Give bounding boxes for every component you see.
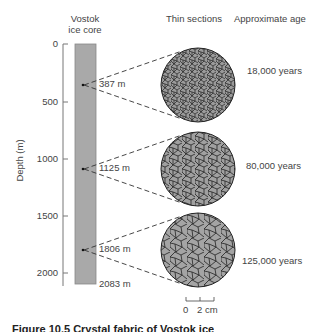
scale-zero: 0 — [183, 304, 188, 315]
depth-label-3: 1806 m — [99, 243, 131, 254]
thin-section-3 — [161, 213, 235, 287]
tick-1500: 1500 — [26, 210, 58, 221]
age-label-2: 80,000 years — [246, 160, 301, 171]
axis-label: Depth (m) — [14, 139, 25, 181]
sample-point-2 — [82, 168, 85, 171]
scale-label: 2 cm — [197, 304, 218, 315]
age-label-1: 18,000 years — [247, 65, 302, 76]
scale-bar — [186, 297, 214, 301]
axis-ticks — [63, 44, 68, 273]
core-bottom-label: 2083 m — [99, 278, 131, 289]
depth-label-1: 387 m — [99, 78, 125, 89]
header-core-line1: Vostok — [60, 13, 110, 24]
tick-0: 0 — [26, 38, 58, 49]
sample-point-3 — [82, 249, 85, 252]
tick-1000: 1000 — [26, 153, 58, 164]
tick-500: 500 — [26, 96, 58, 107]
depth-label-2: 1125 m — [99, 162, 130, 173]
ice-core — [75, 44, 96, 284]
header-core: Vostok ice core — [60, 13, 110, 35]
age-label-3: 125,000 years — [242, 255, 302, 266]
sample-point-1 — [82, 84, 85, 87]
header-age: Approximate age — [234, 13, 306, 24]
header-thin-sections: Thin sections — [166, 13, 222, 24]
header-core-line2: ice core — [60, 24, 110, 35]
figure-caption: Figure 10.5 Crystal fabric of Vostok ice — [12, 323, 214, 332]
thin-section-1 — [161, 48, 235, 122]
thin-section-2 — [161, 132, 235, 206]
tick-2000: 2000 — [26, 267, 58, 278]
